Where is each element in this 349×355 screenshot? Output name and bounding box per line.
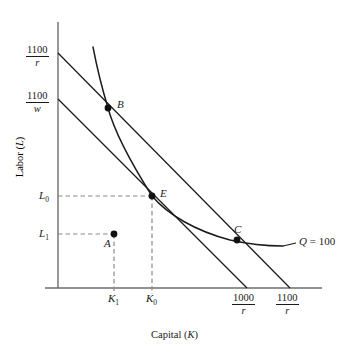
fraction-denominator: r (276, 305, 299, 317)
y-axis-title-wrapper: Labor (L) (9, 117, 27, 197)
isoquant-label-value: = 100 (310, 235, 335, 247)
y-tick-label-L0: L0 (39, 190, 49, 204)
x-tick-label-K0: K0 (146, 293, 157, 307)
x-intercept-1000-over-r: 1000 r (232, 292, 255, 316)
tick-subscript: 1 (45, 233, 49, 242)
fraction-denominator: r (26, 57, 49, 69)
x-axis-title-close: ) (194, 329, 198, 340)
tick-subscript: 0 (45, 195, 49, 204)
fraction-numerator: 1000 (232, 292, 255, 305)
point-A-marker (111, 231, 118, 238)
isoquant-label-q: Q (299, 235, 307, 247)
point-label-B: B (117, 99, 124, 110)
point-E-marker (149, 193, 156, 200)
point-label-C: C (234, 224, 241, 235)
isocost-line-upper (58, 53, 290, 288)
y-axis-title-text: Labor ( (14, 146, 25, 177)
fraction-numerator: 1100 (26, 44, 49, 57)
point-label-A: A (104, 238, 111, 249)
x-axis-title: Capital (K) (0, 330, 349, 341)
y-axis-title: Labor (L) (14, 137, 25, 178)
y-intercept-1100-over-w: 1100 w (26, 90, 49, 114)
point-C-marker (234, 237, 241, 244)
isoquant-curve (93, 47, 283, 246)
point-B-marker (105, 105, 112, 112)
y-axis-title-close: ) (14, 137, 25, 141)
y-axis-title-var: L (14, 140, 25, 146)
fraction-denominator: w (26, 103, 49, 115)
isoquant-label: Q = 100 (299, 236, 335, 247)
tick-subscript: 1 (115, 298, 119, 307)
x-axis-title-text: Capital ( (151, 329, 187, 340)
y-tick-label-L1: L1 (39, 228, 49, 242)
isoquant-isocost-figure: 1100 r 1100 w 1000 r 1100 r L0 L1 K1 K0 … (0, 0, 349, 355)
tick-subscript: 0 (153, 298, 157, 307)
point-label-E: E (160, 188, 167, 199)
y-intercept-1100-over-r: 1100 r (26, 44, 49, 68)
x-tick-label-K1: K1 (108, 293, 119, 307)
fraction-numerator: 1100 (26, 90, 49, 103)
fraction-denominator: r (232, 305, 255, 317)
fraction-numerator: 1100 (276, 292, 299, 305)
isoquant-leader-line (283, 243, 296, 246)
x-intercept-1100-over-r: 1100 r (276, 292, 299, 316)
